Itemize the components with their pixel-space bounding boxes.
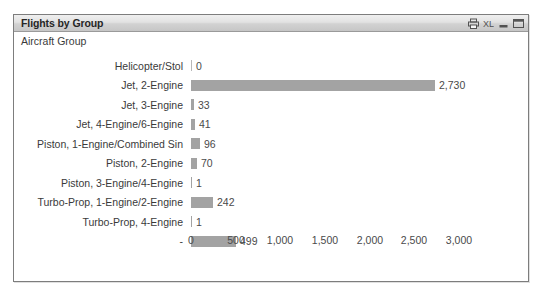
bar-row[interactable]: Piston, 3-Engine/4-Engine1 xyxy=(14,173,528,193)
minimize-icon[interactable] xyxy=(498,18,509,29)
category-label: Helicopter/Stol xyxy=(14,60,191,72)
category-label: Piston, 3-Engine/4-Engine xyxy=(14,177,191,189)
bar-row[interactable]: Helicopter/Stol0 xyxy=(14,56,528,76)
chart-body: Aircraft Group Helicopter/Stol0Jet, 2-En… xyxy=(14,32,528,281)
bar-value-label: 41 xyxy=(199,118,211,130)
bar-track: 33 xyxy=(191,95,528,115)
bar-value-label: 0 xyxy=(196,60,202,72)
bar-track: 1 xyxy=(191,173,528,193)
category-label: Jet, 3-Engine xyxy=(14,99,191,111)
x-axis-tick-label: 1,000 xyxy=(267,234,293,246)
print-icon[interactable] xyxy=(468,18,479,29)
svg-text:XL: XL xyxy=(483,19,494,29)
bar-track: 2,730 xyxy=(191,76,528,96)
bar-value-label: 1 xyxy=(196,177,202,189)
bar-row[interactable]: Jet, 4-Engine/6-Engine41 xyxy=(14,115,528,135)
bar-row[interactable]: Jet, 3-Engine33 xyxy=(14,95,528,115)
bar-track: 96 xyxy=(191,134,528,154)
bar-track: 0 xyxy=(191,56,528,76)
bar-track: 242 xyxy=(191,193,528,213)
x-axis-tick-label: 0 xyxy=(188,234,194,246)
maximize-icon[interactable] xyxy=(513,18,524,29)
bar[interactable] xyxy=(191,99,194,110)
bar-value-label: 242 xyxy=(217,196,235,208)
bar[interactable] xyxy=(191,80,435,91)
bar-row[interactable]: Piston, 2-Engine70 xyxy=(14,154,528,174)
bar-value-label: 96 xyxy=(204,138,216,150)
titlebar-button-group: XL xyxy=(468,18,524,29)
bar[interactable] xyxy=(191,119,195,130)
bar-track: 41 xyxy=(191,115,528,135)
chart-window[interactable]: Flights by Group XL xyxy=(13,14,529,282)
category-label: Piston, 1-Engine/Combined Sin xyxy=(14,138,191,150)
x-axis-tick-label: 3,000 xyxy=(446,234,472,246)
bar[interactable] xyxy=(191,197,213,208)
category-label: Turbo-Prop, 1-Engine/2-Engine xyxy=(14,196,191,208)
export-excel-icon[interactable]: XL xyxy=(483,18,494,29)
bar-row[interactable]: Turbo-Prop, 4-Engine1 xyxy=(14,212,528,232)
x-axis-tick-label: 2,000 xyxy=(357,234,383,246)
window-title: Flights by Group xyxy=(21,15,468,31)
window-titlebar[interactable]: Flights by Group XL xyxy=(14,15,528,32)
category-label: - xyxy=(14,235,191,247)
bar-row[interactable]: Turbo-Prop, 1-Engine/2-Engine242 xyxy=(14,193,528,213)
category-label: Jet, 4-Engine/6-Engine xyxy=(14,118,191,130)
bar-value-label: 1 xyxy=(196,216,202,228)
x-axis-tick-label: 500 xyxy=(227,234,245,246)
bar-row[interactable]: Jet, 2-Engine2,730 xyxy=(14,76,528,96)
bar-value-label: 33 xyxy=(198,99,210,111)
bar[interactable] xyxy=(191,138,200,149)
bar[interactable] xyxy=(191,158,197,169)
bar-row[interactable]: Piston, 1-Engine/Combined Sin96 xyxy=(14,134,528,154)
x-axis-tick-label: 2,500 xyxy=(401,234,427,246)
bar[interactable] xyxy=(191,177,192,188)
bar-track: 70 xyxy=(191,154,528,174)
bar[interactable] xyxy=(191,60,192,71)
category-label: Jet, 2-Engine xyxy=(14,79,191,91)
category-label: Turbo-Prop, 4-Engine xyxy=(14,216,191,228)
bar-track: 1 xyxy=(191,212,528,232)
category-label: Piston, 2-Engine xyxy=(14,157,191,169)
bar-value-label: 70 xyxy=(201,157,213,169)
dimension-label: Aircraft Group xyxy=(21,35,86,47)
bar[interactable] xyxy=(191,216,192,227)
x-axis-tick-label: 1,500 xyxy=(312,234,338,246)
x-axis: 05001,0001,5002,0002,5003,000 xyxy=(191,230,528,252)
bar-value-label: 2,730 xyxy=(439,79,465,91)
